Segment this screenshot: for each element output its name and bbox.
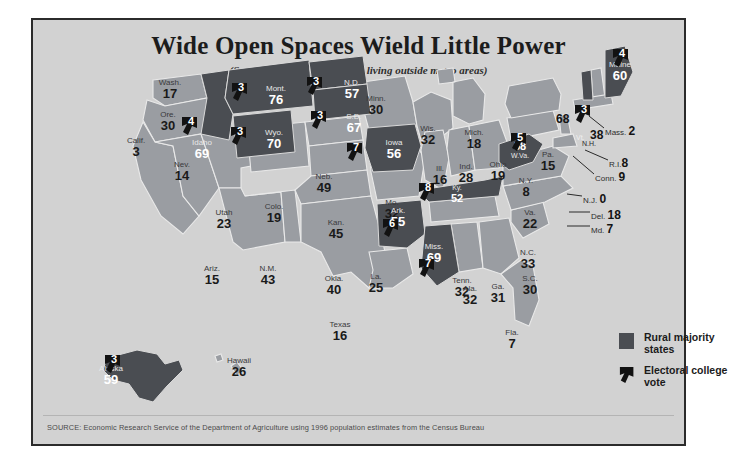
electoral-vote-miss: 7	[417, 258, 439, 278]
electoral-vote-ky: 8	[417, 182, 439, 202]
electoral-vote-vt: 3	[573, 104, 595, 124]
electoral-vote-ark: 6	[381, 218, 403, 238]
state-label-nh-name: N.H.	[582, 140, 596, 147]
electoral-vote-mont: 3	[230, 82, 252, 102]
legend-row-electoral: Electoral college vote	[619, 364, 732, 386]
state-label-nj: N.J. 0	[583, 192, 606, 206]
electoral-vote-iowa: 7	[345, 142, 367, 162]
state-label-del: Del. 18	[591, 208, 621, 222]
electoral-arrow-icon	[617, 366, 639, 384]
electoral-vote-sd: 3	[309, 110, 331, 130]
state-label-ri: R.I.8	[609, 156, 628, 170]
state-label-vt-value: 68	[556, 112, 569, 126]
map-shapes	[33, 20, 688, 448]
legend-row-rural: Rural majority states	[619, 331, 732, 353]
rural-swatch-icon	[619, 333, 634, 349]
source-divider	[43, 415, 674, 416]
state-label-md: Md. 7	[591, 222, 613, 236]
electoral-vote-alaska: 3	[103, 354, 125, 374]
state-label-conn: Conn. 9	[595, 170, 625, 184]
legend-label-electoral: Electoral college vote	[644, 364, 732, 388]
source-note: SOURCE: Economic Research Service of the…	[47, 423, 484, 432]
infographic-panel: Wide Open Spaces Wield Little Power (Sta…	[31, 18, 686, 446]
electoral-vote-maine: 4	[611, 48, 633, 68]
electoral-vote-wyo: 3	[229, 126, 251, 146]
electoral-vote-idaho: 4	[180, 116, 202, 136]
legend: Rural majority states Electoral college …	[619, 331, 732, 397]
us-map	[33, 20, 684, 444]
electoral-vote-wva: 5	[509, 132, 531, 152]
state-label-mass: Mass. 2	[605, 124, 635, 138]
electoral-vote-nd: 3	[305, 76, 327, 96]
legend-label-rural: Rural majority states	[644, 331, 732, 355]
